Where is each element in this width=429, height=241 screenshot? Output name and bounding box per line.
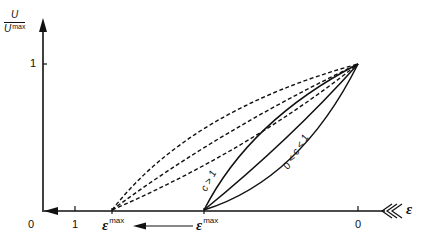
diagram-canvas — [0, 0, 429, 241]
solid-curves — [204, 64, 358, 210]
eps-max-shift-arrow — [133, 223, 193, 230]
x-axis-label: ε — [406, 202, 412, 217]
y-axis — [39, 18, 47, 212]
y-axis-arrow-icon — [39, 18, 47, 32]
x-tick-label-0: 0 — [355, 219, 361, 230]
x-axis-left-arrow-icon — [44, 207, 58, 215]
left-arrow-icon — [133, 223, 146, 230]
x-tick-label-origin: 0 — [28, 219, 34, 230]
x-axis — [44, 204, 402, 218]
y-axis-label: U Umax — [4, 10, 25, 34]
x-tick-label-1: 1 — [72, 219, 78, 230]
eps-max-right-label: εmax — [196, 218, 218, 233]
eps-max-left-label: εmax — [102, 218, 124, 233]
y-axis-label-denominator: Umax — [4, 23, 25, 35]
y-tick-label-1: 1 — [30, 58, 36, 69]
y-axis-label-numerator: U — [4, 10, 25, 23]
